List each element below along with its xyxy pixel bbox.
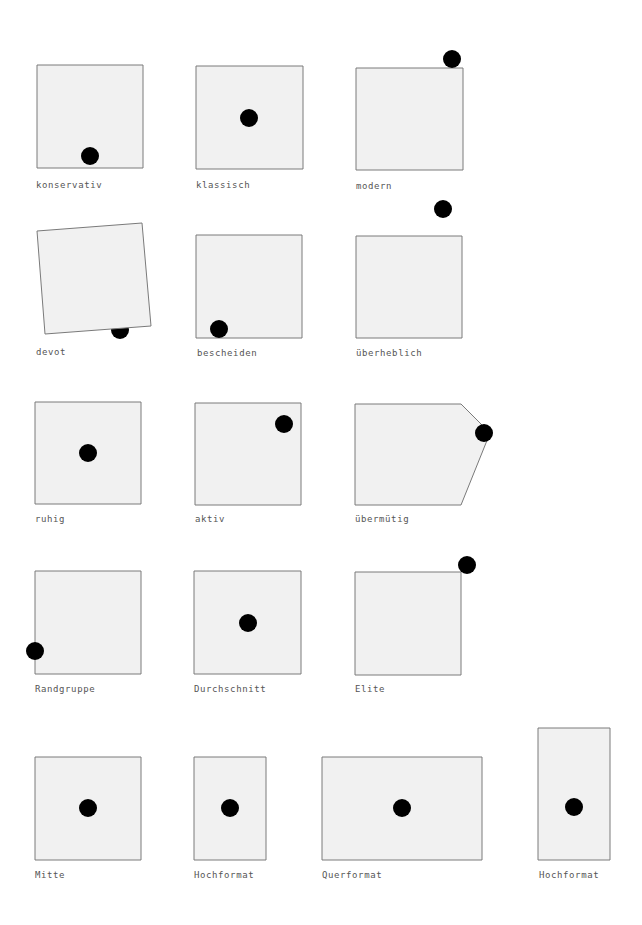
item-label: konservativ [36,180,102,190]
composition-item [194,571,301,674]
dot-icon [443,50,461,68]
dot-icon [275,415,293,433]
item-label: modern [356,181,392,191]
item-label: aktiv [195,514,225,524]
dot-icon [565,798,583,816]
item-label: ruhig [35,514,65,524]
composition-item [26,571,141,674]
dot-icon [26,642,44,660]
composition-item [355,404,493,505]
composition-item [356,50,463,170]
shapes-layer [0,0,642,925]
dot-icon [210,320,228,338]
item-label: Querformat [322,870,382,880]
item-label: überheblich [356,348,422,358]
composition-item [37,65,143,168]
item-label: Hochformat [539,870,599,880]
frame-shape [37,223,151,334]
frame-shape [35,571,141,674]
dot-icon [240,109,258,127]
item-label: Randgruppe [35,684,95,694]
composition-diagram: konservativklassischmoderndevotbescheide… [0,0,642,925]
dot-icon [239,614,257,632]
item-label: übermütig [355,514,409,524]
frame-shape [356,236,462,338]
item-label: bescheiden [197,348,257,358]
composition-item [37,223,151,339]
composition-item [195,403,301,505]
dot-icon [79,799,97,817]
dot-icon [434,200,452,218]
item-label: Mitte [35,870,65,880]
item-label: Elite [355,684,385,694]
composition-item [35,757,141,860]
composition-item [196,66,303,169]
composition-item [356,200,462,338]
dot-icon [393,799,411,817]
item-label: Hochformat [194,870,254,880]
item-label: devot [36,347,66,357]
dot-icon [475,424,493,442]
item-label: Durchschnitt [194,684,266,694]
dot-icon [458,556,476,574]
frame-shape [196,235,302,338]
composition-item [194,757,266,860]
composition-item [322,757,482,860]
frame-shape [538,728,610,860]
frame-shape [356,68,463,170]
composition-item [196,235,302,338]
dot-icon [81,147,99,165]
dot-icon [221,799,239,817]
composition-item [35,402,141,504]
composition-item [355,556,476,675]
frame-shape [355,572,461,675]
frame-shape [355,404,490,505]
dot-icon [79,444,97,462]
composition-item [538,728,610,860]
item-label: klassisch [196,180,250,190]
